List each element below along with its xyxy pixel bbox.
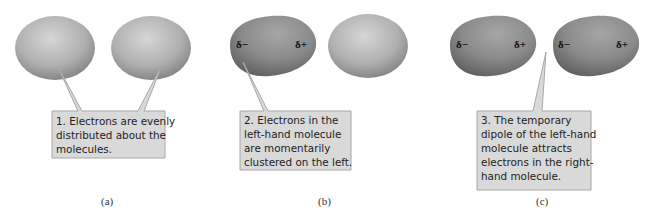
caption-b: (b) [318, 195, 331, 207]
delta-minus-c-left: δ− [456, 38, 468, 50]
caption-a: (a) [101, 195, 113, 207]
callout-c-line: molecule attracts [481, 141, 596, 155]
callout-b-line: clustered on the left. [244, 155, 352, 169]
molecule-b-right [328, 14, 408, 78]
callout-c-line: electrons in the right- [481, 155, 596, 169]
delta-plus-c-left: δ+ [514, 38, 526, 50]
callout-a-line: distributed about the [56, 128, 175, 142]
callout-b-text: 2. Electrons in the left-hand molecule a… [244, 113, 352, 169]
delta-plus-c-right: δ+ [616, 38, 628, 50]
callout-c-line: 3. The temporary [481, 113, 596, 127]
delta-minus-c-right: δ− [558, 38, 570, 50]
callout-c-line: dipole of the left-hand [481, 127, 596, 141]
delta-minus-b-left: δ− [236, 38, 248, 50]
callout-b-line: 2. Electrons in the [244, 113, 352, 127]
delta-plus-b-left: δ+ [295, 38, 307, 50]
callout-a-line: molecules. [56, 142, 175, 156]
callout-b-line: left-hand molecule [244, 127, 352, 141]
callout-c-line: hand molecule. [481, 169, 596, 183]
molecule-a-right [111, 16, 191, 80]
molecule-a-left [15, 16, 95, 80]
callout-a-line: 1. Electrons are evenly [56, 114, 175, 128]
callout-a-text: 1. Electrons are evenly distributed abou… [56, 114, 175, 156]
caption-c: (c) [536, 195, 548, 207]
callout-b-line: are momentarily [244, 141, 352, 155]
callout-c-text: 3. The temporary dipole of the left-hand… [481, 113, 596, 183]
